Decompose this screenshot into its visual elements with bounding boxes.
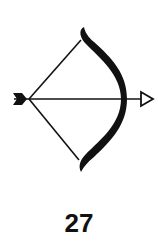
card-number: 27 <box>0 208 158 238</box>
bow-and-arrow-icon <box>0 0 158 185</box>
